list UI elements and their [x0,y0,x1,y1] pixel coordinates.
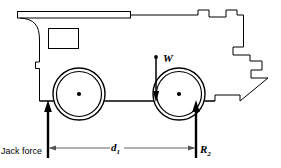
front-wheel-hub-dot [77,92,81,96]
front-wheel [53,68,105,120]
reaction-r2-arrow [192,100,200,158]
d1-dimension-line [49,145,196,150]
d1-dimension-arrowhead-right [188,145,196,150]
weight-label: W [163,53,173,64]
window-rectangle [49,29,79,49]
jack-force-label: Jack force [1,147,42,156]
reaction-r2-label-subscript: 2 [207,150,211,158]
rear-wheel-hub-dot [177,92,181,96]
d1-distance-label-subscript: 1 [117,148,121,156]
d1-distance-label: d1 [111,142,120,156]
d1-dimension-arrowhead-left [49,145,57,150]
roof-slab [18,12,131,19]
reaction-r2-label: R2 [200,144,211,158]
jack-force-arrow-head [44,100,52,112]
jack-force-arrow [44,100,52,158]
vehicle-free-body-diagram [0,0,281,168]
body-left-wall [20,18,40,101]
figure-canvas: Jack force d1 W R2 [0,0,281,168]
